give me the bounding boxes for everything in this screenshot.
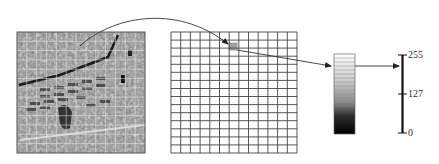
arrow-pixel-to-bar <box>237 50 331 66</box>
tick-label-255: 255 <box>408 50 423 60</box>
grayscale-bar <box>334 54 355 134</box>
diagram-svg <box>0 0 439 164</box>
pixel-grid <box>171 32 297 153</box>
tick-label-127: 127 <box>408 89 423 99</box>
dark-rect <box>128 50 132 56</box>
dark-rect <box>121 75 125 83</box>
diagram-canvas: 255 127 0 <box>0 0 439 164</box>
value-scale <box>398 55 407 133</box>
highlighted-pixel <box>229 43 238 51</box>
tick-label-0: 0 <box>408 128 413 138</box>
satellite-image <box>17 32 145 153</box>
